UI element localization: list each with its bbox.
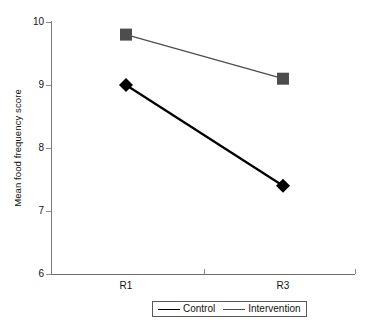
intervention-line — [126, 35, 283, 79]
legend-label-control: Control — [183, 304, 215, 314]
control-point-r1 — [119, 78, 133, 92]
chart-container: Mean food frequency score 10 9 8 7 6 R1 … — [0, 0, 370, 329]
series-intervention — [120, 29, 289, 85]
legend-item-control[interactable]: Control — [158, 304, 215, 314]
series-layer — [0, 0, 370, 329]
legend: Control Intervention — [152, 301, 307, 317]
square-marker-icon — [223, 304, 245, 314]
legend-label-intervention: Intervention — [248, 304, 300, 314]
control-line — [126, 85, 283, 186]
legend-item-intervention[interactable]: Intervention — [223, 304, 300, 314]
diamond-marker-icon — [158, 304, 180, 314]
series-control — [119, 78, 290, 193]
intervention-point-r3 — [277, 73, 289, 85]
intervention-point-r1 — [120, 29, 132, 41]
control-point-r3 — [276, 179, 290, 193]
